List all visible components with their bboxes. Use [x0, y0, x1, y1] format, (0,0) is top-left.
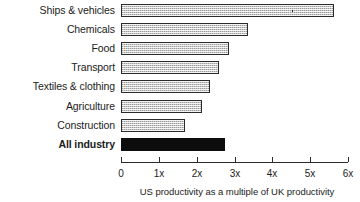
axis-tick-label: 2x — [185, 168, 209, 179]
axis-line — [121, 162, 348, 163]
axis-tick-label: 1x — [147, 168, 171, 179]
bar — [121, 23, 248, 36]
bar-chart: Ships & vehiclesChemicalsFoodTransportTe… — [0, 0, 360, 202]
bar — [121, 61, 219, 74]
axis-tick — [348, 157, 349, 162]
axis-tick-label: 4x — [260, 168, 284, 179]
axis-tick — [272, 157, 273, 162]
bar — [121, 119, 185, 132]
axis-caption: US productivity as a multiple of UK prod… — [0, 186, 360, 197]
bar — [121, 4, 334, 17]
print-speck — [292, 10, 293, 12]
axis-tick-label: 6x — [336, 168, 360, 179]
axis-tick — [197, 157, 198, 162]
axis-tick — [235, 157, 236, 162]
axis-tick — [159, 157, 160, 162]
axis-tick-label: 3x — [223, 168, 247, 179]
bar — [121, 138, 225, 151]
axis-tick — [121, 157, 122, 162]
bar — [121, 42, 229, 55]
axis-tick-label: 5x — [298, 168, 322, 179]
axis-tick-label: 0 — [109, 168, 133, 179]
bar — [121, 100, 202, 113]
bar — [121, 80, 210, 93]
axis-tick — [310, 157, 311, 162]
plot-area — [0, 0, 360, 170]
